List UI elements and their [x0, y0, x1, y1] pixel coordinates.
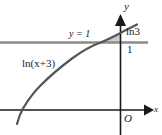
- y-axis-arrowhead: [115, 14, 126, 26]
- curve-function-label: ln(x+3): [22, 58, 55, 69]
- x-axis-arrowhead: [144, 105, 154, 116]
- origin-label: O: [124, 113, 132, 124]
- y-axis-label: y: [124, 1, 129, 12]
- log-graph-figure: y x O ln3 1 y = 1 ln(x+3): [0, 0, 162, 135]
- y-intercept-ln3-label: ln3: [126, 26, 140, 37]
- x-axis-label: x: [154, 105, 158, 114]
- y-value-one-label: 1: [127, 44, 133, 55]
- horizontal-line-label: y = 1: [69, 29, 90, 39]
